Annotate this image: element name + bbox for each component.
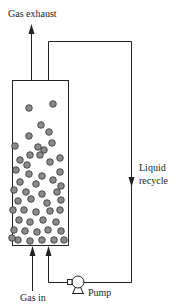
particle xyxy=(39,237,46,244)
particle xyxy=(51,237,58,244)
arrow-up-icon xyxy=(30,246,36,256)
particle xyxy=(57,169,64,176)
particle xyxy=(17,157,24,164)
particle xyxy=(21,207,28,214)
particle xyxy=(13,167,20,174)
particle xyxy=(50,101,57,108)
particle xyxy=(24,162,31,169)
arrow-down-icon xyxy=(129,177,135,187)
particle xyxy=(27,238,34,245)
pump-icon xyxy=(68,276,85,294)
particle-bed xyxy=(9,101,68,245)
reactor-diagram: Gas exhaust Liquid recycle Pump Gas in xyxy=(0,0,179,304)
particle xyxy=(53,219,60,226)
particle xyxy=(50,177,57,184)
particle xyxy=(57,207,64,214)
gas-exhaust-label: Gas exhaust xyxy=(8,8,57,19)
liquid-recycle-label-line1: Liquid xyxy=(139,162,166,173)
particle xyxy=(22,228,29,235)
particle xyxy=(57,155,64,162)
particle xyxy=(17,179,24,186)
particle xyxy=(28,196,35,203)
particle xyxy=(10,207,17,214)
particle xyxy=(40,217,47,224)
particle xyxy=(15,237,22,244)
particle xyxy=(12,143,19,150)
particle xyxy=(26,133,33,140)
particle xyxy=(11,227,18,234)
particle xyxy=(38,122,45,129)
particle xyxy=(33,209,40,216)
particle xyxy=(61,237,68,244)
gas-exhaust-line xyxy=(29,24,35,80)
arrow-up-icon xyxy=(46,246,52,256)
pump-label: Pump xyxy=(88,287,111,298)
liquid-recycle-line xyxy=(49,42,135,283)
particle xyxy=(23,189,30,196)
particle xyxy=(54,189,61,196)
particle xyxy=(27,219,34,226)
arrow-up-icon xyxy=(29,24,35,34)
particle xyxy=(39,173,46,180)
particle xyxy=(58,183,65,190)
particle xyxy=(49,140,56,147)
particle xyxy=(33,181,40,188)
particle xyxy=(37,152,44,159)
particle xyxy=(26,171,33,178)
particle xyxy=(27,152,34,159)
particle xyxy=(58,228,65,235)
particle xyxy=(9,235,16,242)
particle xyxy=(46,129,53,136)
liquid-recycle-label-line2: recycle xyxy=(139,175,168,186)
particle xyxy=(35,144,42,151)
gas-in-line xyxy=(30,246,36,291)
particle xyxy=(47,159,54,166)
particle xyxy=(34,229,41,236)
particle xyxy=(26,105,33,112)
particle xyxy=(47,208,54,215)
particle xyxy=(58,197,65,204)
particle xyxy=(44,200,51,207)
particle xyxy=(16,217,23,224)
recycle-return-line xyxy=(46,246,68,283)
particle xyxy=(11,187,18,194)
particle xyxy=(45,227,52,234)
particle xyxy=(15,198,22,205)
particle xyxy=(39,191,46,198)
gas-in-label: Gas in xyxy=(20,292,46,303)
